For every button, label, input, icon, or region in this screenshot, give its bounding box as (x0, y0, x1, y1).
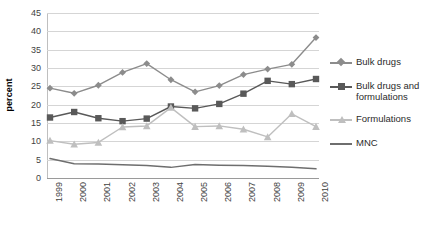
x-axis-tick-label: 1999 (54, 182, 64, 202)
legend-label: Bulk drugs (356, 56, 401, 67)
legend-item[interactable]: Formulations (330, 113, 422, 126)
x-axis-tick: 1999 (54, 182, 64, 202)
legend-item[interactable]: Bulk drugs (330, 56, 422, 69)
x-axis-tick-label: 2006 (223, 182, 233, 202)
data-point (95, 115, 101, 121)
data-point (289, 81, 295, 87)
data-point (71, 109, 77, 115)
x-axis-tick-label: 2003 (151, 182, 161, 202)
x-axis-tick: 2002 (127, 182, 137, 202)
data-point (264, 66, 271, 73)
x-axis-tick: 2010 (320, 182, 330, 202)
x-axis-tick: 2005 (199, 182, 209, 202)
x-axis-tick: 2009 (296, 182, 306, 202)
legend-swatch (330, 81, 352, 93)
x-axis-tick-label: 2002 (127, 182, 137, 202)
legend-marker-square-icon (338, 83, 345, 90)
legend-marker-diamond-icon (337, 58, 345, 66)
x-axis-tick-label: 2010 (320, 182, 330, 202)
legend-swatch (330, 138, 352, 150)
data-point (71, 90, 78, 97)
y-axis-title-label: percent (4, 78, 14, 111)
data-point (144, 115, 150, 121)
series-bulk-drugs (47, 34, 320, 97)
x-axis-tick-label: 2000 (78, 182, 88, 202)
chart-legend: Bulk drugsBulk drugs and formulationsFor… (330, 56, 422, 161)
x-axis-tick-label: 2009 (296, 182, 306, 202)
data-point (240, 90, 246, 96)
x-axis-tick-label: 2001 (102, 182, 112, 202)
data-point (264, 78, 270, 84)
x-axis-tick-label: 2004 (175, 182, 185, 202)
x-axis-tick: 2000 (78, 182, 88, 202)
y-axis-tick: 0 (36, 173, 41, 183)
x-axis-tick-label: 2007 (247, 182, 257, 202)
data-point (288, 110, 296, 117)
line-chart: percent 454035302520151050 1999200020012… (0, 0, 422, 227)
plot-area (47, 13, 319, 178)
data-point (313, 76, 319, 82)
y-axis-title: percent (0, 0, 18, 190)
data-point (192, 105, 198, 111)
series-line (50, 159, 316, 169)
y-axis-tick: 40 (31, 26, 41, 36)
x-axis-tick-label: 2008 (272, 182, 282, 202)
data-point (192, 88, 199, 95)
x-axis-tick: 2004 (175, 182, 185, 202)
legend-label: Formulations (356, 113, 411, 124)
series-line (50, 38, 316, 94)
legend-swatch (330, 57, 352, 69)
y-axis-tick: 45 (31, 8, 41, 18)
y-axis-tick: 35 (31, 45, 41, 55)
x-axis-tick: 2006 (223, 182, 233, 202)
legend-label: MNC (356, 137, 378, 148)
y-axis-tick: 15 (31, 118, 41, 128)
y-axis-tick: 30 (31, 63, 41, 73)
data-point (312, 123, 320, 130)
series-mnc (50, 159, 316, 169)
series-layer (47, 13, 319, 178)
x-axis-tick: 2008 (272, 182, 282, 202)
data-point (240, 71, 247, 78)
legend-marker-triangle-icon (338, 116, 346, 123)
legend-item[interactable]: Bulk drugs and formulations (330, 80, 422, 102)
data-point (95, 82, 102, 89)
legend-swatch (330, 114, 352, 126)
y-axis-tick: 25 (31, 81, 41, 91)
data-point (119, 69, 126, 76)
legend-label: Bulk drugs and formulations (356, 80, 419, 102)
x-axis-tick-labels: 1999200020012002200320042005200620072008… (47, 178, 319, 227)
x-axis-tick: 2007 (247, 182, 257, 202)
data-point (216, 82, 223, 89)
x-axis-tick: 2003 (151, 182, 161, 202)
y-axis-tick: 5 (36, 155, 41, 165)
x-axis-tick-label: 2005 (199, 182, 209, 202)
legend-item[interactable]: MNC (330, 137, 422, 150)
y-axis-tick: 10 (31, 136, 41, 146)
data-point (47, 114, 53, 120)
series-line (50, 108, 316, 145)
legend-line (330, 143, 352, 145)
data-point (47, 85, 54, 92)
y-axis-tick-labels: 454035302520151050 (18, 0, 44, 190)
data-point (216, 101, 222, 107)
y-axis-tick: 20 (31, 100, 41, 110)
series-formulations (46, 104, 320, 148)
x-axis-tick: 2001 (102, 182, 112, 202)
